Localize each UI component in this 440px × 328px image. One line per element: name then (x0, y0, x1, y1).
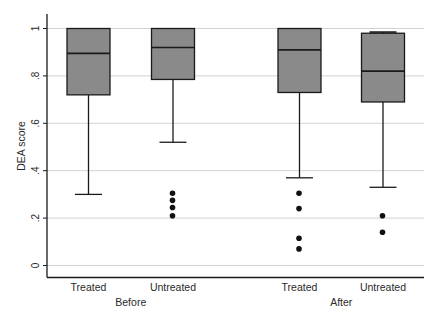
outlier-point (170, 190, 176, 196)
outlier-point (170, 213, 176, 219)
box-plot-chart: 0.2.4.6.81 DEA score TreatedUntreatedBef… (0, 0, 440, 328)
y-tick-label: .2 (30, 213, 41, 222)
x-group-label: After (330, 296, 353, 308)
y-tick-label: 0 (30, 262, 41, 268)
outlier-point (380, 230, 386, 236)
y-tick-label: .6 (30, 119, 41, 128)
outlier-point (296, 235, 302, 241)
outlier-point (380, 213, 386, 219)
outlier-point (296, 246, 302, 252)
box-after-untreated (362, 32, 405, 235)
y-tick-label: 1 (30, 25, 41, 31)
x-group-label: Before (115, 296, 146, 308)
y-tick-label: .4 (30, 166, 41, 175)
y-tick-label: .8 (30, 71, 41, 80)
y-axis-title: DEA score (15, 121, 27, 171)
x-category-label: Treated (282, 281, 318, 293)
y-axis-ticks: 0.2.4.6.81 (30, 25, 48, 268)
outlier-point (296, 190, 302, 196)
outlier-point (170, 205, 176, 211)
outlier-point (170, 198, 176, 204)
outlier-point (296, 206, 302, 212)
iqr-box (278, 29, 321, 93)
x-category-label: Untreated (360, 281, 406, 293)
iqr-box (67, 29, 110, 95)
iqr-box (152, 29, 195, 80)
iqr-box (362, 33, 405, 102)
x-axis-labels: TreatedUntreatedBeforeTreatedUntreatedAf… (71, 281, 407, 308)
x-category-label: Untreated (150, 281, 196, 293)
x-category-label: Treated (71, 281, 107, 293)
box-before-treated (67, 29, 110, 195)
